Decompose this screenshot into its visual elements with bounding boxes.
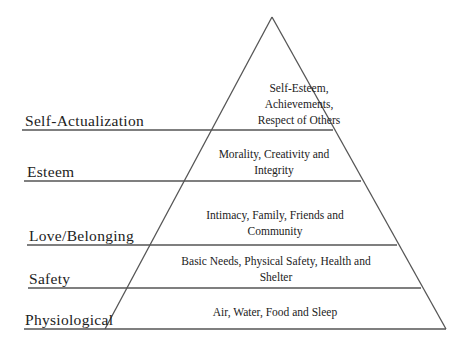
description-self-actualization: Self-Esteem, Achievements, Respect of Ot… bbox=[258, 82, 341, 127]
description-line: Self-Esteem, bbox=[269, 82, 328, 95]
description-line: Intimacy, Family, Friends and bbox=[206, 209, 344, 222]
level-label-safety: Safety bbox=[29, 270, 70, 287]
description-safety: Basic Needs, Physical Safety, Health and… bbox=[181, 255, 371, 283]
description-love-belonging: Intimacy, Family, Friends and Community bbox=[206, 209, 344, 238]
level-label-love-belonging: Love/Belonging bbox=[29, 227, 134, 244]
description-physiological: Air, Water, Food and Sleep bbox=[213, 306, 338, 319]
description-line: Shelter bbox=[260, 271, 293, 283]
level-label-self-actualization: Self-Actualization bbox=[25, 112, 144, 129]
level-label-esteem: Esteem bbox=[27, 163, 74, 180]
description-line: Air, Water, Food and Sleep bbox=[213, 306, 338, 319]
description-line: Achievements, bbox=[265, 98, 334, 111]
pyramid-left-edge bbox=[105, 17, 272, 329]
description-esteem: Morality, Creativity and Integrity bbox=[219, 148, 330, 177]
description-line: Community bbox=[248, 225, 303, 238]
description-line: Respect of Others bbox=[258, 114, 341, 127]
description-line: Morality, Creativity and bbox=[219, 148, 330, 161]
level-label-physiological: Physiological bbox=[25, 311, 113, 328]
description-line: Integrity bbox=[254, 164, 294, 177]
pyramid-right-edge bbox=[272, 17, 446, 329]
description-line: Basic Needs, Physical Safety, Health and bbox=[181, 255, 371, 268]
hierarchy-pyramid-diagram: Self-Actualization Esteem Love/Belonging… bbox=[0, 0, 468, 352]
